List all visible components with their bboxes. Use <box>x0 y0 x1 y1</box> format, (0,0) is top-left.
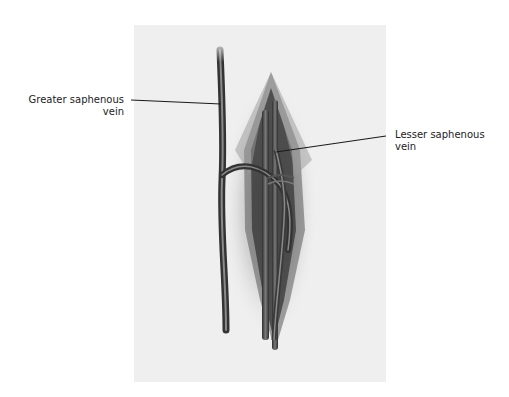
incision-wound <box>222 72 318 350</box>
lesser-saphenous-label: Lesser saphenous vein <box>395 129 505 153</box>
vein-illustration <box>0 0 509 397</box>
greater-saphenous-leader <box>131 100 221 104</box>
lesser-saphenous-label-line1: Lesser saphenous <box>395 129 505 141</box>
greater-saphenous-label-line1: Greater saphenous <box>20 94 124 106</box>
greater-saphenous-label-line2: vein <box>20 106 124 118</box>
lesser-saphenous-label-line2: vein <box>395 141 505 153</box>
greater-saphenous-label: Greater saphenous vein <box>20 94 124 118</box>
